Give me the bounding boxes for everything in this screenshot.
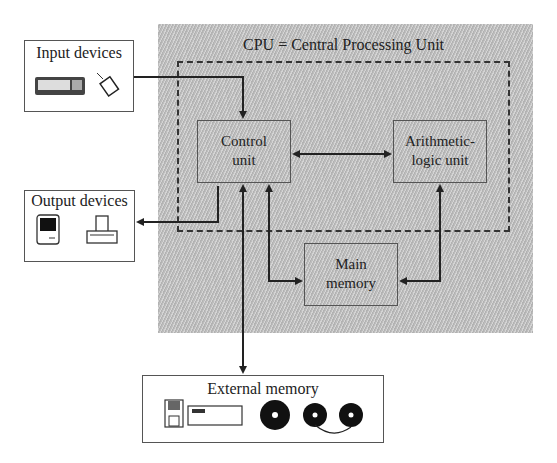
arrow-control-to-output xyxy=(138,186,218,222)
arrow-input-to-control xyxy=(134,77,243,117)
connection-arrows xyxy=(0,0,557,463)
arrow-alu-main-memory xyxy=(401,186,440,281)
arrow-control-main-memory xyxy=(269,186,301,281)
